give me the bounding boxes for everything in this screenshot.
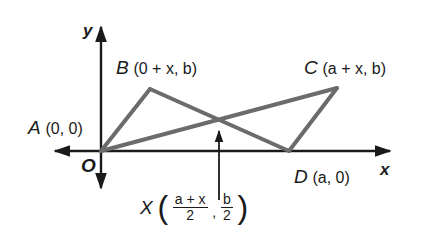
- coord-separator: ,: [212, 204, 216, 220]
- origin-label: O: [81, 156, 96, 175]
- y-denominator: 2: [221, 208, 233, 223]
- point-c-coords: (a + x, b): [322, 60, 386, 77]
- point-b-name: B: [116, 57, 129, 78]
- point-d-coords: (a, 0): [312, 169, 349, 186]
- y-coordinate-fraction: b 2: [221, 192, 233, 223]
- point-d-name: D: [294, 166, 308, 187]
- point-b-label: B (0 + x, b): [116, 58, 197, 77]
- open-paren: (: [157, 189, 168, 225]
- x-numerator: a + x: [173, 192, 208, 208]
- point-c-label: C (a + x, b): [304, 58, 386, 77]
- x-axis-label: x: [380, 161, 389, 178]
- point-a-coords: (0, 0): [45, 120, 82, 137]
- point-b-coords: (0 + x, b): [133, 60, 197, 77]
- close-paren: ): [237, 189, 248, 225]
- x-coordinate-fraction: a + x 2: [173, 192, 208, 223]
- point-a-label: A (0, 0): [28, 118, 83, 137]
- y-axis-label: y: [83, 22, 92, 39]
- point-c-name: C: [304, 57, 318, 78]
- point-d-label: D (a, 0): [294, 167, 350, 186]
- point-x-name: X: [140, 197, 153, 218]
- y-numerator: b: [221, 192, 233, 208]
- x-denominator: 2: [173, 208, 208, 223]
- point-a-name: A: [28, 117, 41, 138]
- point-x-label: X ( a + x 2 , b 2 ): [140, 191, 248, 223]
